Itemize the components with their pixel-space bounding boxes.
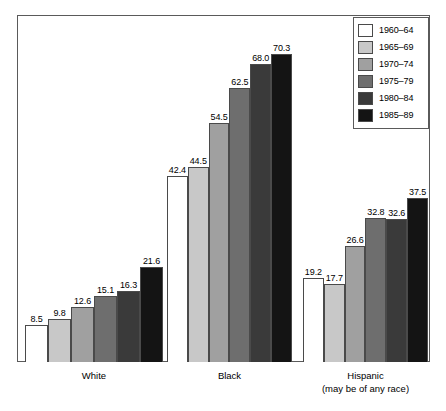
bar-slot: 54.5: [209, 16, 230, 362]
bar-value-label: 9.8: [53, 308, 65, 319]
bar-value-label: 42.4: [169, 165, 186, 176]
bar-hispanic-1985–89[interactable]: 37.5: [407, 198, 428, 362]
bar-hispanic-1965–69[interactable]: 17.7: [324, 284, 345, 362]
bar-value-label: 21.6: [143, 256, 160, 267]
category-label-hispanic: Hispanic(may be of any race): [303, 369, 428, 395]
bar-black-1970–74[interactable]: 54.5: [209, 123, 230, 362]
category-label-text: Black: [218, 370, 241, 381]
bar-slot: 19.2: [303, 16, 324, 362]
bar-hispanic-1980–84[interactable]: 32.6: [386, 219, 407, 362]
legend-item-label: 1975–79: [379, 76, 413, 87]
legend-swatch-icon: [358, 41, 373, 54]
legend-swatch-icon: [358, 92, 373, 105]
bar-value-label: 37.5: [409, 187, 426, 198]
legend-swatch-icon: [358, 24, 373, 37]
legend-item-1960–64[interactable]: 1960–64: [358, 22, 425, 39]
bar-slot: 68.0: [250, 16, 271, 362]
bar-black-1985–89[interactable]: 70.3: [271, 54, 292, 362]
bar-chart: 8.59.812.615.116.321.642.444.554.562.568…: [0, 0, 446, 411]
legend-item-1980–84[interactable]: 1980–84: [358, 90, 425, 107]
bar-slot: 17.7: [324, 16, 345, 362]
bar-slot: 8.5: [25, 16, 48, 362]
bar-slot: 44.5: [188, 16, 209, 362]
bar-value-label: 54.5: [211, 112, 228, 123]
legend-swatch-icon: [358, 109, 373, 122]
bar-group-black: 42.444.554.562.568.070.3: [167, 16, 292, 362]
bar-white-1975–79[interactable]: 15.1: [94, 296, 117, 362]
bar-value-label: 26.6: [347, 235, 364, 246]
category-label-white: White: [25, 369, 163, 382]
category-label-black: Black: [167, 369, 292, 382]
bar-white-1965–69[interactable]: 9.8: [48, 319, 71, 362]
legend-item-label: 1960–64: [379, 25, 413, 36]
bar-value-label: 62.5: [231, 77, 248, 88]
bar-white-1985–89[interactable]: 21.6: [140, 267, 163, 362]
bar-value-label: 16.3: [120, 280, 137, 291]
bar-value-label: 44.5: [190, 156, 207, 167]
bars: 8.59.812.615.116.321.6: [25, 16, 163, 362]
bar-slot: 16.3: [117, 16, 140, 362]
legend-swatch-icon: [358, 58, 373, 71]
bar-value-label: 19.2: [305, 267, 322, 278]
bar-hispanic-1970–74[interactable]: 26.6: [345, 246, 366, 363]
legend: 1960–641965–691970–741975–791980–841985–…: [353, 17, 429, 129]
bar-white-1960–64[interactable]: 8.5: [25, 325, 48, 362]
legend-item-label: 1970–74: [379, 59, 413, 70]
bar-black-1965–69[interactable]: 44.5: [188, 167, 209, 362]
bar-black-1980–84[interactable]: 68.0: [250, 64, 271, 362]
legend-item-1970–74[interactable]: 1970–74: [358, 56, 425, 73]
bar-value-label: 68.0: [252, 53, 269, 64]
bars: 42.444.554.562.568.070.3: [167, 16, 292, 362]
bar-hispanic-1960–64[interactable]: 19.2: [303, 278, 324, 362]
bar-slot: 21.6: [140, 16, 163, 362]
legend-item-1975–79[interactable]: 1975–79: [358, 73, 425, 90]
bar-value-label: 8.5: [30, 314, 42, 325]
bar-black-1975–79[interactable]: 62.5: [229, 88, 250, 362]
bar-white-1970–74[interactable]: 12.6: [71, 307, 94, 362]
legend-item-label: 1980–84: [379, 93, 413, 104]
bar-white-1980–84[interactable]: 16.3: [117, 291, 140, 362]
legend-item-label: 1985–89: [379, 110, 413, 121]
category-label-text: White: [82, 370, 106, 381]
legend-item-1965–69[interactable]: 1965–69: [358, 39, 425, 56]
bar-slot: 15.1: [94, 16, 117, 362]
bar-value-label: 70.3: [273, 43, 290, 54]
bar-value-label: 15.1: [97, 285, 114, 296]
legend-item-label: 1965–69: [379, 42, 413, 53]
bar-slot: 9.8: [48, 16, 71, 362]
bar-slot: 62.5: [229, 16, 250, 362]
bar-group-white: 8.59.812.615.116.321.6: [25, 16, 163, 362]
category-sublabel-text: (may be of any race): [303, 382, 428, 395]
bar-slot: 12.6: [71, 16, 94, 362]
bar-slot: 70.3: [271, 16, 292, 362]
bar-hispanic-1975–79[interactable]: 32.8: [365, 218, 386, 362]
legend-swatch-icon: [358, 75, 373, 88]
bar-value-label: 32.8: [367, 207, 384, 218]
bar-value-label: 17.7: [326, 273, 343, 284]
bar-value-label: 32.6: [388, 208, 405, 219]
bar-slot: 42.4: [167, 16, 188, 362]
bar-black-1960–64[interactable]: 42.4: [167, 176, 188, 362]
bar-value-label: 12.6: [74, 296, 91, 307]
category-label-text: Hispanic: [347, 370, 383, 381]
legend-item-1985–89[interactable]: 1985–89: [358, 107, 425, 124]
